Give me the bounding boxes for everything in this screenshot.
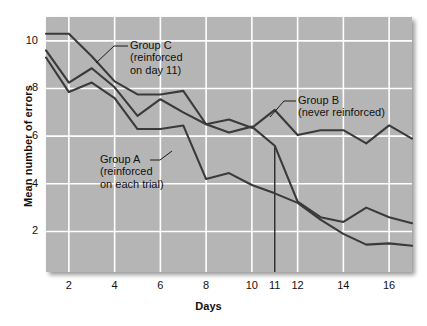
y-tick-label: 4 xyxy=(12,177,38,189)
x-tick-label: 6 xyxy=(150,279,170,291)
annotation-group-a-line2: (reinforced xyxy=(100,165,164,177)
annotation-group-a: Group A (reinforced on each trial) xyxy=(100,153,164,190)
annotation-group-c-line1: Group C xyxy=(130,39,183,51)
chart-figure: Mean number of errors Days 246810 246810… xyxy=(0,0,427,326)
y-tick-label: 10 xyxy=(12,34,38,46)
plot-area-background xyxy=(46,17,412,272)
x-tick-label: 16 xyxy=(379,279,399,291)
annotation-group-b-line1: Group B xyxy=(298,94,385,106)
x-axis-label: Days xyxy=(0,300,427,312)
x-tick-label: 12 xyxy=(288,279,308,291)
x-tick-label: 2 xyxy=(59,279,79,291)
x-tick-label: 11 xyxy=(265,279,285,291)
x-tick-label: 4 xyxy=(105,279,125,291)
chart-canvas xyxy=(0,0,427,326)
y-tick-label: 6 xyxy=(12,129,38,141)
annotation-group-a-line1: Group A xyxy=(100,153,164,165)
x-tick-label: 14 xyxy=(333,279,353,291)
annotation-group-b: Group B (never reinforced) xyxy=(298,94,385,119)
annotation-group-c-line3: on day 11) xyxy=(130,64,183,76)
x-tick-label: 8 xyxy=(196,279,216,291)
annotation-group-c-line2: (reinforced xyxy=(130,51,183,63)
x-axis-label-text: Days xyxy=(195,300,221,312)
annotation-group-c: Group C (reinforced on day 11) xyxy=(130,39,183,76)
x-tick-label: 10 xyxy=(242,279,262,291)
y-tick-label: 2 xyxy=(12,224,38,236)
annotation-group-a-line3: on each trial) xyxy=(100,178,164,190)
annotation-group-b-line2: (never reinforced) xyxy=(298,106,385,118)
y-tick-label: 8 xyxy=(12,81,38,93)
